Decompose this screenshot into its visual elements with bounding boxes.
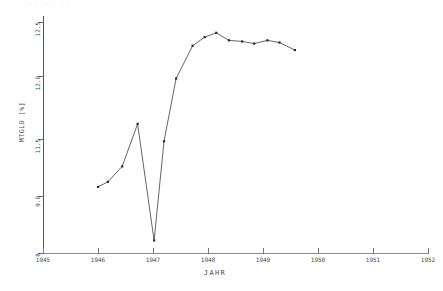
plot-area bbox=[0, 0, 443, 291]
data-point bbox=[228, 39, 230, 41]
data-point bbox=[97, 186, 99, 188]
data-point bbox=[153, 239, 155, 241]
chart-canvas: ··· ···· ·· 12.5 12.0 11.5 9.0 8 MTGLD [… bbox=[0, 0, 443, 291]
data-point bbox=[137, 123, 139, 125]
data-point bbox=[294, 49, 296, 51]
data-point bbox=[215, 32, 217, 34]
series-line bbox=[98, 33, 295, 241]
data-point bbox=[204, 36, 206, 38]
data-point bbox=[253, 43, 255, 45]
data-point bbox=[121, 165, 123, 167]
data-point bbox=[278, 41, 280, 43]
data-point bbox=[163, 140, 165, 142]
data-point bbox=[241, 40, 243, 42]
series-markers bbox=[97, 32, 296, 242]
data-point bbox=[192, 45, 194, 47]
data-point bbox=[107, 181, 109, 183]
data-point bbox=[175, 77, 177, 79]
data-point bbox=[266, 39, 268, 41]
